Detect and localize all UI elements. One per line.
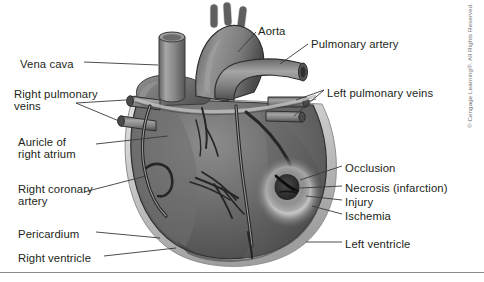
leader-pericardium [96, 232, 160, 238]
heart-anatomy-figure: Vena cava Right pulmonary veins Auricle … [0, 0, 484, 282]
label-right-ventricle: Right ventricle [18, 252, 91, 264]
label-right-coronary-artery: Right coronary artery [18, 183, 93, 208]
copyright-notice: © Cengage Learning®. All Rights Reserved… [466, 3, 473, 128]
label-occlusion: Occlusion [345, 162, 396, 174]
label-pulmonary-artery: Pulmonary artery [311, 38, 399, 50]
bottom-divider [0, 272, 484, 273]
label-aorta: Aorta [258, 25, 286, 37]
label-left-pulmonary-veins: Left pulmonary veins [327, 87, 433, 99]
label-necrosis-infarction: Necrosis (infarction) [345, 182, 448, 194]
label-right-pulmonary-veins: Right pulmonary veins [14, 88, 98, 113]
label-injury: Injury [345, 196, 373, 208]
label-left-ventricle: Left ventricle [345, 238, 410, 250]
infarction-zone [255, 156, 323, 228]
leader-vena-cava [84, 62, 158, 65]
label-pericardium: Pericardium [18, 228, 79, 240]
label-auricle-of-right-atrium: Auricle of right atrium [18, 136, 76, 161]
label-ischemia: Ischemia [345, 210, 391, 222]
label-vena-cava: Vena cava [20, 58, 74, 70]
vena-cava-shape [159, 32, 185, 102]
leader-right-ventricle [104, 248, 176, 256]
